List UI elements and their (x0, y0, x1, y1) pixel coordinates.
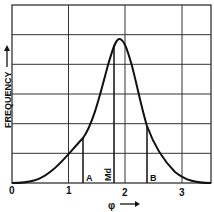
chart-grid (12, 5, 211, 183)
label-md: Md (103, 168, 113, 181)
frequency-curve (12, 39, 211, 183)
x-arrow-icon (120, 201, 140, 207)
y-arrow-icon (4, 45, 10, 67)
label-a: A (86, 173, 93, 183)
frequency-chart: A Md B 0 1 2 3 φ FREQUENCY (0, 0, 214, 212)
label-b: B (150, 173, 157, 183)
x-tick-3: 3 (179, 187, 185, 198)
x-tick-0: 0 (9, 185, 15, 196)
x-tick-2: 2 (122, 187, 128, 198)
y-axis-label: FREQUENCY (3, 71, 13, 128)
x-tick-1: 1 (66, 185, 72, 196)
x-axis-label: φ (108, 200, 115, 211)
